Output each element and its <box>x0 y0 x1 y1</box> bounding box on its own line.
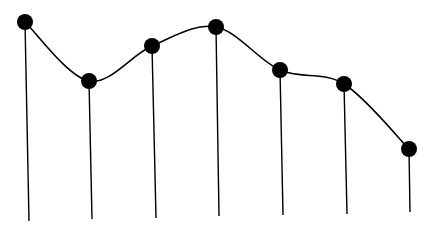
data-point-marker <box>144 38 160 54</box>
data-point-marker <box>81 73 97 89</box>
data-point-marker <box>17 14 33 30</box>
drop-lines <box>25 22 410 221</box>
drop-line <box>89 81 92 219</box>
data-point-marker <box>336 76 352 92</box>
data-point-marker <box>401 141 417 157</box>
data-point-marker <box>272 62 288 78</box>
drop-line <box>216 27 219 216</box>
data-point-marker <box>208 19 224 35</box>
drop-line <box>344 84 347 214</box>
drop-line <box>25 22 29 221</box>
drop-line <box>409 149 410 212</box>
lollipop-line-chart <box>0 0 437 231</box>
drop-line <box>280 70 283 215</box>
drop-line <box>152 46 156 218</box>
